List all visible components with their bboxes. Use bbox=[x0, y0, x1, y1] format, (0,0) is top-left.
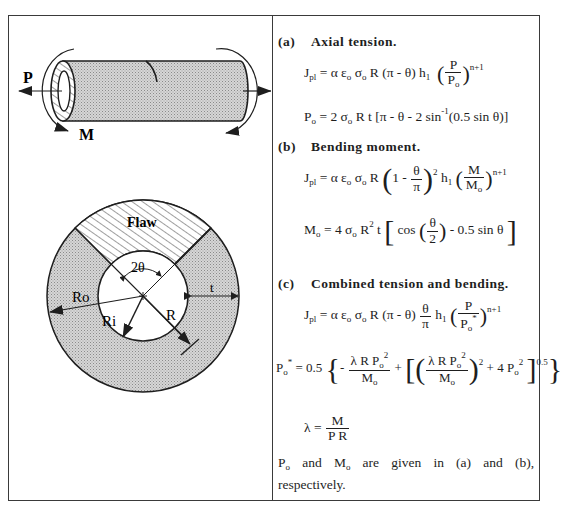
inner-radius-label: Ri bbox=[102, 313, 116, 329]
case-a-title: Axial tension. bbox=[311, 34, 397, 49]
case-b-title: Bending moment. bbox=[311, 139, 421, 154]
flaw-label: Flaw bbox=[127, 215, 157, 230]
case-c-jpl-equation: Jpl = α εo σo R (π - θ) θπ h1 (PPo*)n+1 bbox=[304, 299, 501, 334]
case-b-mo-equation: Mo = 4 σo R2 t [ cos (θ2) - 0.5 sin θ ] bbox=[304, 214, 517, 248]
pipe-cylinder-drawing bbox=[51, 61, 248, 121]
case-c-heading: (c)Combined tension and bending. bbox=[278, 276, 509, 292]
outer-radius-label: Ro bbox=[72, 289, 90, 305]
diagram-panel: P M 2θ Ro Ri bbox=[9, 16, 271, 500]
case-a-heading: (a)Axial tension. bbox=[278, 34, 397, 50]
thickness-label: t bbox=[210, 280, 214, 295]
case-c-title: Combined tension and bending. bbox=[311, 276, 509, 291]
case-c-po-star-equation: Po* = 0.5 {- λ R Po2Mo + [(λ R Po2Mo)2 +… bbox=[276, 351, 562, 388]
cross-section-drawing: 2θ Ro Ri R t Flaw bbox=[47, 200, 239, 392]
load-label-m: M bbox=[79, 126, 94, 143]
case-a-po-equation: Po = 2 σo R t [π - θ - 2 sin-1(0.5 sin θ… bbox=[304, 106, 508, 126]
load-label-p: P bbox=[23, 69, 33, 86]
case-a-jpl-equation: Jpl = α εo σo R (π - θ) h1 (PPo)n+1 bbox=[304, 58, 484, 90]
case-c-lambda-equation: λ = MP R bbox=[304, 414, 350, 443]
case-b-heading: (b)Bending moment. bbox=[278, 139, 421, 155]
equations-panel: (a)Axial tension. Jpl = α εo σo R (π - θ… bbox=[274, 16, 538, 500]
angle-label: 2θ bbox=[131, 260, 145, 275]
mean-radius-label: R bbox=[166, 307, 176, 323]
case-b-jpl-equation: Jpl = α εo σo R (1 - θπ)2 h1 (MMo)n+1 bbox=[304, 162, 507, 196]
footnote: Po and Mo are given in (a) and (b), resp… bbox=[278, 454, 534, 493]
